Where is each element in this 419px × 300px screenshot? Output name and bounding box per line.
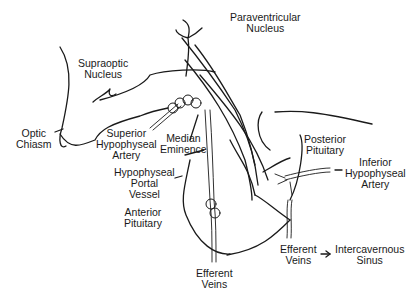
label-hypophyseal-portal-vessel: HypophysealPortalVessel [114, 167, 175, 200]
label-efferent-veins-right: EfferentVeins [280, 244, 317, 266]
brain-outline [60, 47, 69, 147]
label-median-eminence: MedianEminence [160, 133, 207, 155]
label-optic-chiasm: OpticChiasm [16, 128, 52, 150]
label-anterior-pituitary: AnteriorPituitary [124, 207, 162, 229]
label-paraventricular-nucleus: ParaventricularNucleus [230, 12, 301, 34]
label-efferent-veins-bottom: EfferentVeins [196, 268, 233, 290]
label-supraoptic-nucleus: SupraopticNucleus [78, 58, 128, 80]
hypothalamic-pituitary-diagram: ParaventricularNucleus SupraopticNucleus… [0, 0, 419, 300]
label-intercavernous-sinus: IntercavernousSinus [335, 244, 404, 266]
label-inferior-hypophyseal-artery: InferiorHypophysealArtery [345, 157, 406, 190]
label-posterior-pituitary: PosteriorPituitary [304, 134, 346, 156]
label-superior-hypophyseal-artery: SuperiorHypophysealArtery [96, 128, 157, 161]
